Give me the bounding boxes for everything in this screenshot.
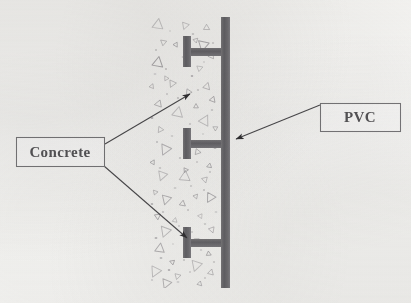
concrete-speck bbox=[203, 189, 205, 191]
concrete-aggregate-particle bbox=[209, 96, 217, 104]
concrete-aggregate-particle bbox=[169, 259, 175, 265]
concrete-aggregate-particle bbox=[158, 144, 172, 157]
concrete-aggregate-particle bbox=[173, 42, 179, 48]
pvc-label: PVC bbox=[321, 104, 401, 132]
concrete-aggregate-particle bbox=[179, 170, 191, 181]
concrete-aggregate-particle bbox=[150, 159, 156, 165]
concrete-label: Concrete bbox=[17, 138, 105, 167]
concrete-arrow-upper bbox=[105, 94, 190, 144]
concrete-speck bbox=[189, 271, 191, 272]
concrete-aggregate-particle bbox=[154, 100, 162, 108]
concrete-speck bbox=[159, 167, 162, 169]
concrete-aggregate-particle bbox=[172, 105, 185, 117]
concrete-speck bbox=[191, 75, 194, 77]
callout-labels: ConcretePVC bbox=[17, 104, 401, 167]
pvc-arrow bbox=[236, 105, 320, 139]
concrete-aggregate-particle bbox=[197, 213, 202, 218]
concrete-speck bbox=[209, 171, 211, 173]
concrete-label-text: Concrete bbox=[29, 144, 90, 160]
concrete-aggregate-particle bbox=[197, 64, 204, 71]
concrete-aggregate-particle bbox=[148, 266, 162, 279]
concrete-aggregate-particle bbox=[179, 200, 187, 208]
concrete-aggregate-particle bbox=[197, 281, 203, 287]
concrete-speck bbox=[168, 269, 171, 271]
concrete-aggregate-particle bbox=[203, 192, 216, 204]
pvc-concrete-cross-section-figure: ConcretePVC bbox=[0, 0, 411, 303]
concrete-speck bbox=[204, 223, 207, 225]
concrete-aggregate-particle bbox=[208, 227, 215, 234]
concrete-aggregate-particle bbox=[152, 18, 164, 29]
concrete-speck bbox=[169, 30, 171, 31]
concrete-speck bbox=[151, 279, 153, 280]
concrete-speck bbox=[203, 61, 205, 63]
concrete-speck bbox=[200, 249, 203, 250]
pvc-rib-bottom-flange bbox=[183, 227, 191, 258]
concrete-aggregate-particle bbox=[156, 171, 168, 182]
concrete-speck bbox=[179, 157, 181, 159]
concrete-speck bbox=[212, 42, 214, 43]
concrete-speck bbox=[172, 243, 174, 245]
concrete-aggregate-particle bbox=[206, 251, 212, 257]
concrete-aggregate-particle bbox=[149, 83, 155, 89]
concrete-speck bbox=[166, 93, 168, 94]
concrete-aggregate-particle bbox=[193, 193, 199, 199]
concrete-speck bbox=[177, 97, 179, 99]
pvc-rib-top-web bbox=[190, 48, 221, 56]
concrete-aggregate-particle bbox=[212, 125, 218, 131]
concrete-aggregate-particle bbox=[152, 56, 164, 67]
pvc-rib-bottom-web bbox=[190, 239, 221, 247]
concrete-speck bbox=[197, 89, 199, 91]
concrete-aggregate-particle bbox=[203, 81, 212, 89]
concrete-speck bbox=[204, 277, 206, 279]
concrete-speck bbox=[155, 237, 158, 239]
concrete-speck bbox=[162, 211, 164, 213]
concrete-speck bbox=[178, 225, 180, 227]
concrete-aggregate-particle bbox=[206, 163, 212, 169]
concrete-aggregate-particle bbox=[202, 177, 209, 184]
concrete-speck bbox=[192, 33, 195, 35]
concrete-speck bbox=[202, 133, 204, 135]
concrete-aggregate-particle bbox=[204, 24, 212, 32]
concrete-speck bbox=[177, 281, 180, 283]
concrete-aggregate-particle bbox=[156, 126, 164, 134]
concrete-speck bbox=[171, 135, 174, 136]
concrete-speck bbox=[155, 49, 157, 51]
concrete-aggregate-particle bbox=[160, 279, 172, 291]
concrete-aggregate-particle bbox=[195, 149, 201, 156]
concrete-aggregate-particle bbox=[163, 75, 169, 81]
concrete-speck bbox=[174, 187, 177, 189]
concrete-aggregate-particle bbox=[155, 242, 166, 252]
concrete-aggregate-particle bbox=[175, 272, 182, 279]
concrete-speck bbox=[190, 185, 192, 186]
pvc-rib-top-flange bbox=[183, 36, 191, 67]
concrete-speck bbox=[215, 211, 218, 212]
concrete-speck bbox=[160, 257, 163, 259]
diagram-canvas: ConcretePVC bbox=[0, 0, 411, 303]
leader-lines bbox=[104, 94, 320, 238]
concrete-speck bbox=[151, 203, 154, 205]
pvc-wall-panel bbox=[221, 17, 230, 288]
concrete-aggregate-particle bbox=[208, 268, 215, 275]
pvc-rib-middle-web bbox=[190, 140, 221, 148]
concrete-speck bbox=[191, 231, 193, 232]
concrete-speck bbox=[156, 141, 158, 143]
concrete-arrow-lower bbox=[104, 166, 187, 238]
pvc-label-text: PVC bbox=[344, 109, 376, 125]
concrete-aggregate-particle bbox=[158, 226, 171, 239]
concrete-aggregate-particle bbox=[172, 217, 178, 222]
concrete-speck bbox=[213, 261, 215, 263]
concrete-region bbox=[148, 18, 218, 291]
concrete-speck bbox=[165, 68, 167, 70]
concrete-aggregate-particle bbox=[152, 189, 158, 195]
concrete-aggregate-particle bbox=[160, 195, 172, 206]
concrete-speck bbox=[189, 123, 191, 125]
concrete-aggregate-particle bbox=[194, 104, 199, 108]
concrete-aggregate-particle bbox=[167, 80, 176, 89]
concrete-aggregate-particle bbox=[180, 22, 189, 31]
pvc-rib-middle-flange bbox=[183, 128, 191, 159]
concrete-speck bbox=[196, 161, 198, 162]
concrete-speck bbox=[183, 259, 185, 261]
concrete-aggregate-particle bbox=[159, 38, 167, 46]
pvc-wall-assembly bbox=[183, 17, 230, 288]
concrete-aggregate-particle bbox=[189, 260, 202, 273]
